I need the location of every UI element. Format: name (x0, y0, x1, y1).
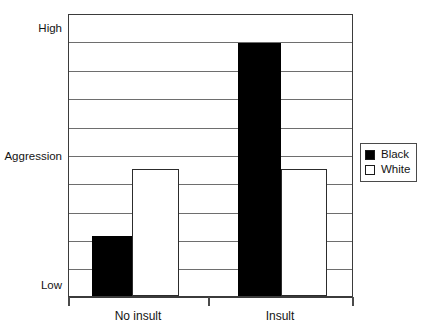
gridline (69, 71, 352, 72)
bar-no-insult-black (92, 236, 132, 296)
filled-square-icon (365, 150, 375, 160)
x-axis-tick-right (352, 297, 354, 306)
y-axis-labels: High Aggression Low (0, 0, 62, 334)
bar-no-insult-white (132, 169, 179, 296)
x-axis-label-no-insult: No insult (88, 309, 188, 323)
hollow-square-icon (365, 165, 375, 175)
x-axis-tick-middle (208, 297, 210, 306)
gridline (69, 99, 352, 100)
plot-area (68, 14, 353, 297)
y-axis-label-aggression: Aggression (4, 150, 62, 162)
y-axis-label-low: Low (41, 279, 62, 291)
y-axis-label-high: High (38, 22, 62, 34)
legend-label-black: Black (381, 148, 409, 161)
legend: Black White (360, 143, 417, 182)
gridline (69, 128, 352, 129)
gridline (69, 156, 352, 157)
x-axis-line (68, 296, 353, 298)
x-axis-tick-left (68, 297, 70, 306)
bar-insult-white (281, 169, 327, 296)
bar-insult-black (238, 43, 281, 296)
legend-item-black: Black (365, 147, 412, 162)
gridline (69, 42, 352, 43)
x-axis-label-insult: Insult (230, 309, 330, 323)
legend-label-white: White (381, 163, 410, 176)
bar-chart-figure: High Aggression Low No insult Insult Bla… (0, 0, 424, 334)
legend-item-white: White (365, 162, 412, 177)
